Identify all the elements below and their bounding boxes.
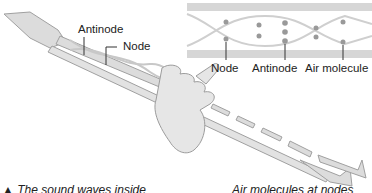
inset-node-label: Node (211, 62, 239, 74)
caption-right: Air molecules at nodes (232, 183, 353, 193)
antinode-label: Antinode (78, 23, 123, 35)
inset-air-molecule-label: Air molecule (305, 62, 368, 74)
flute-illustration (0, 0, 372, 193)
node-label: Node (123, 40, 151, 52)
inset-antinode-label: Antinode (252, 62, 297, 74)
standing-wave-figure: Antinode Node Node Antinode Air molecule… (0, 0, 372, 193)
caption-left: ▲ The sound waves inside (2, 183, 146, 193)
hand-icon (155, 63, 219, 152)
inset-diagram (187, 3, 372, 60)
